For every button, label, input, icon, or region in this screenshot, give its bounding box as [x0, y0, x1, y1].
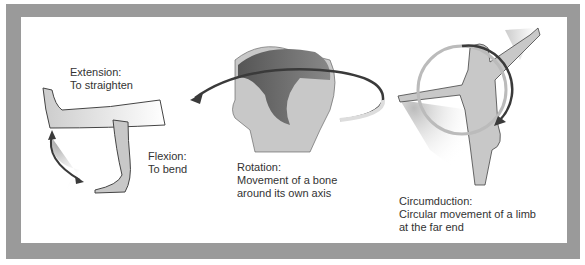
rotation-desc-line1: Movement of a bone	[237, 174, 337, 187]
flexion-title: Flexion:	[148, 150, 187, 163]
rotation-illustration	[190, 47, 383, 152]
circumduction-title: Circumduction:	[399, 195, 536, 208]
circumduction-illustration	[398, 28, 540, 185]
flexion-desc: To bend	[148, 163, 187, 176]
extension-desc: To straighten	[70, 79, 133, 92]
flexion-label: Flexion: To bend	[148, 150, 187, 176]
circumduction-label: Circumduction: Circular movement of a li…	[399, 195, 536, 234]
rotation-label: Rotation: Movement of a bone around its …	[237, 161, 337, 200]
circumduction-desc-line1: Circular movement of a limb	[399, 208, 536, 221]
rotation-desc-line2: around its own axis	[237, 187, 337, 200]
circumduction-desc-line2: at the far end	[399, 221, 536, 234]
leg-illustration	[43, 88, 165, 194]
extension-label: Extension: To straighten	[70, 66, 133, 92]
rotation-title: Rotation:	[237, 161, 337, 174]
extension-title: Extension:	[70, 66, 133, 79]
